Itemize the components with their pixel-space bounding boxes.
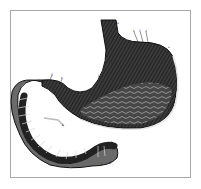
figure-label-g: g <box>51 73 53 76</box>
figure-label-b: b <box>133 30 135 33</box>
figure-label-f: f <box>98 75 99 78</box>
figure-label-k: k <box>62 124 64 127</box>
figure-label-i: i <box>149 121 150 124</box>
stomach <box>42 20 178 129</box>
figure-label-h: h <box>61 77 63 80</box>
stomach-engraving <box>0 0 201 189</box>
figure-label-c: c <box>139 29 141 32</box>
figure-label-m: m <box>108 162 111 165</box>
figure-label-l: l <box>101 163 102 166</box>
figure-label-a: a <box>117 22 119 25</box>
figure-label-d: d <box>145 30 147 33</box>
figure-label-e: e <box>168 46 170 49</box>
